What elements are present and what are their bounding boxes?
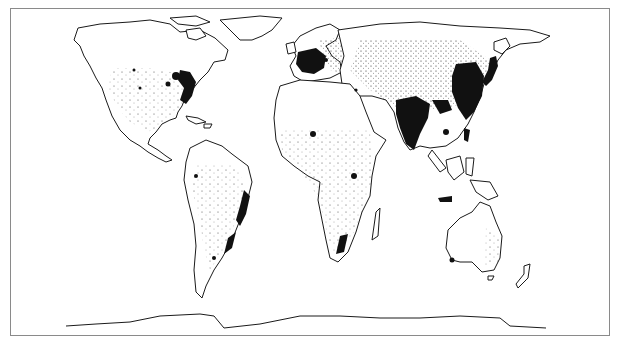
africa <box>274 80 386 262</box>
antarctica <box>66 314 546 328</box>
caribbean <box>186 116 212 128</box>
world-map <box>0 0 622 349</box>
south-america <box>184 140 252 298</box>
australia <box>446 202 530 288</box>
